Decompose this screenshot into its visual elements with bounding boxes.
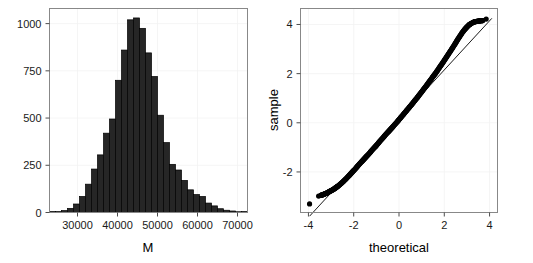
- qqplot-x-tick-label: -4: [304, 219, 314, 231]
- histogram-bar: [134, 18, 140, 213]
- qqplot-point: [307, 201, 312, 206]
- histogram-bar: [176, 170, 182, 213]
- histogram-x-tick-label: 40000: [102, 219, 133, 231]
- qqplot-y-tick-label: 2: [286, 68, 292, 80]
- histogram-bar: [86, 184, 92, 212]
- histogram-x-ticks: [78, 213, 238, 217]
- qqplot-y-tick-label: 0: [286, 117, 292, 129]
- histogram-bar: [146, 53, 152, 213]
- histogram-bar: [92, 169, 98, 212]
- qqplot-y-axis-title: sample: [266, 89, 281, 131]
- histogram-bar: [212, 206, 218, 213]
- histogram-bar: [182, 180, 188, 212]
- histogram-bar: [116, 80, 122, 212]
- histogram-bar: [74, 204, 80, 213]
- histogram-bar: [80, 196, 86, 212]
- histogram-y-ticks: [46, 24, 50, 213]
- histogram-bar: [128, 20, 134, 213]
- qqplot-grid: [301, 9, 498, 213]
- histogram-bar: [122, 50, 128, 212]
- qqplot-x-axis-title: theoretical: [369, 240, 429, 255]
- histogram-bar: [68, 208, 74, 212]
- histogram-bar: [218, 209, 224, 213]
- qqplot-x-tick-label: -2: [349, 219, 359, 231]
- histogram-y-tick-label: 250: [23, 159, 41, 171]
- qqplot-point: [484, 16, 489, 21]
- histogram-bar: [164, 143, 170, 213]
- histogram-bar: [104, 133, 110, 212]
- histogram-x-tick-label: 50000: [142, 219, 173, 231]
- histogram-y-tick-label: 1000: [17, 18, 41, 30]
- histogram-bar: [206, 203, 212, 212]
- histogram-svg: 3000040000500006000070000 02505007501000…: [0, 0, 266, 263]
- qqplot-y-tick-label: 4: [286, 18, 292, 30]
- histogram-x-axis-title: M: [143, 240, 154, 255]
- histogram-bar: [194, 195, 200, 213]
- histogram-y-tick-label: 500: [23, 112, 41, 124]
- qqplot-panel: -4-2024 -2024 theoretical sample: [266, 0, 532, 263]
- histogram-y-tick-labels: 02505007501000: [17, 18, 41, 219]
- qqplot-y-tick-labels: -2024: [283, 18, 293, 177]
- qqplot-y-ticks: [297, 24, 301, 171]
- histogram-x-tick-label: 30000: [62, 219, 93, 231]
- histogram-bar: [152, 77, 158, 213]
- histogram-x-tick-labels: 3000040000500006000070000: [62, 219, 253, 231]
- histogram-x-tick-label: 70000: [222, 219, 253, 231]
- histogram-bar: [188, 190, 194, 213]
- qqplot-y-tick-label: -2: [283, 166, 293, 178]
- qqplot-x-ticks: [308, 213, 489, 217]
- histogram-bar: [110, 119, 116, 213]
- histogram-panel: 3000040000500006000070000 02505007501000…: [0, 0, 266, 263]
- histogram-bar: [158, 115, 164, 212]
- histogram-bar: [200, 196, 206, 212]
- histogram-bar: [140, 28, 146, 212]
- qqplot-x-tick-label: 2: [441, 219, 447, 231]
- histogram-bar: [98, 155, 104, 213]
- histogram-y-tick-label: 750: [23, 65, 41, 77]
- qqplot-svg: -4-2024 -2024 theoretical sample: [266, 0, 533, 263]
- qqplot-x-tick-label: 0: [396, 219, 402, 231]
- qqplot-x-tick-label: 4: [487, 219, 493, 231]
- histogram-bar: [170, 164, 176, 212]
- qqplot-x-tick-labels: -4-2024: [304, 219, 493, 231]
- figure-container: 3000040000500006000070000 02505007501000…: [0, 0, 533, 263]
- histogram-y-tick-label: 0: [35, 207, 41, 219]
- histogram-x-tick-label: 60000: [182, 219, 213, 231]
